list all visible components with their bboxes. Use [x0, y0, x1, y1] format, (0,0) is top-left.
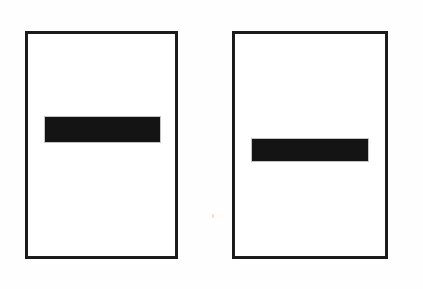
stray-scan-mark: ı: [212, 212, 214, 219]
figure-canvas: ı: [0, 0, 423, 289]
left-panel-frame: [25, 31, 178, 259]
right-panel-bar: [252, 139, 368, 161]
left-panel-bar: [45, 117, 160, 142]
right-panel-frame: [232, 31, 388, 259]
